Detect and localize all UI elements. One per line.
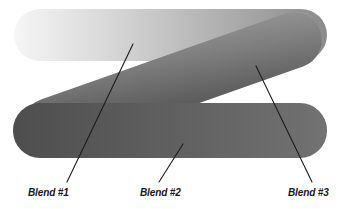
blend-bar-bottom [13,103,327,158]
blend-illustration-figure: Blend #1 Blend #2 Blend #3 [0,0,344,209]
label-blend-1: Blend #1 [28,186,69,198]
blend-illustration-canvas: Blend #1 Blend #2 Blend #3 [0,0,344,209]
label-blend-3: Blend #3 [288,186,329,198]
label-blend-2: Blend #2 [140,186,181,198]
